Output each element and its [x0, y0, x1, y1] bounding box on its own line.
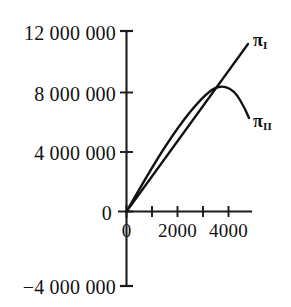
- x-axis-label-4000: 4000: [202, 221, 255, 240]
- series-path-pi-2: [127, 87, 250, 212]
- y-axis-label-12000000: 12 000 000: [8, 23, 116, 43]
- y-axis-label-0: 0: [8, 203, 112, 223]
- series-path-pi-1: [127, 44, 249, 212]
- series-label-pi-1-base: π: [253, 30, 263, 50]
- x-axis-label-2000: 2000: [151, 221, 204, 240]
- x-axis-label-0: 0: [111, 221, 142, 240]
- series-label-pi-2-base: π: [253, 111, 263, 131]
- series-label-pi-1: πI: [253, 31, 267, 49]
- y-axis-label-8000000: 8 000 000: [8, 84, 116, 104]
- y-axis-label-4000000: 4 000 000: [8, 143, 116, 163]
- series-label-pi-2-subscript: II: [263, 120, 272, 132]
- chart-figure: 12 000 000 8 000 000 4 000 000 0 −4 000 …: [0, 0, 291, 307]
- y-axis-label-minus-4000000: −4 000 000: [2, 277, 116, 297]
- series-label-pi-2: πII: [253, 112, 272, 130]
- series-label-pi-1-subscript: I: [263, 39, 267, 51]
